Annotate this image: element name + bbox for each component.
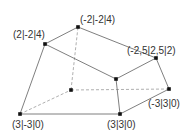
vertex-labels: (3|-3|0)(3|3|0)(-3|3|0)(2|-2|4)(-2|-2|4)… (12, 14, 180, 130)
vertex-point-D (69, 88, 73, 92)
edge-EF (45, 27, 78, 44)
vertex-label-E: (2|-2|4) (13, 29, 45, 40)
vertex-label-F: (-2|-2|4) (80, 14, 115, 25)
hidden-edge-DC (71, 89, 169, 90)
polyhedron-diagram: (3|-3|0)(3|3|0)(-3|3|0)(2|-2|4)(-2|-2|4)… (0, 0, 193, 135)
edge-HG (116, 58, 156, 79)
hidden-edges (20, 27, 169, 114)
edge-EH (45, 44, 116, 79)
vertex-point-A (18, 112, 22, 116)
edge-GC (156, 58, 169, 89)
vertex-point-F (76, 25, 80, 29)
edge-AE (20, 44, 45, 114)
edge-HB (116, 79, 120, 114)
vertex-point-H (114, 77, 118, 81)
vertex-label-B: (3|3|0) (107, 119, 136, 130)
vertex-point-C (167, 87, 171, 91)
vertex-point-B (118, 112, 122, 116)
visible-edges (20, 27, 169, 114)
vertex-label-A: (3|-3|0) (12, 119, 44, 130)
vertex-point-G (154, 56, 158, 60)
vertex-point-E (43, 42, 47, 46)
vertex-label-C: (-3|3|0) (148, 98, 180, 109)
vertex-label-G: (-2,5|2,5|2) (127, 45, 176, 56)
